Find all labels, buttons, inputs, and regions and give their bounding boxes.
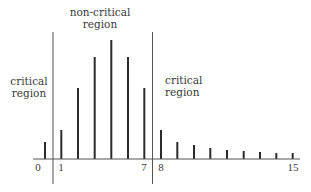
tick-label-8: 8 <box>158 161 164 173</box>
left-critical-region-label: critical region <box>10 75 47 99</box>
critical-region-chart: critical region non-critical region crit… <box>0 0 311 192</box>
tick-label-0: 0 <box>35 161 41 173</box>
tick-label-15: 15 <box>288 161 299 173</box>
right-critical-region-label: critical region <box>165 74 202 98</box>
tick-label-7: 7 <box>141 161 147 173</box>
probability-stems <box>45 40 293 159</box>
region-boundaries <box>53 32 153 184</box>
non-critical-region-label: non-critical region <box>70 6 131 30</box>
tick-label-1: 1 <box>58 161 64 173</box>
